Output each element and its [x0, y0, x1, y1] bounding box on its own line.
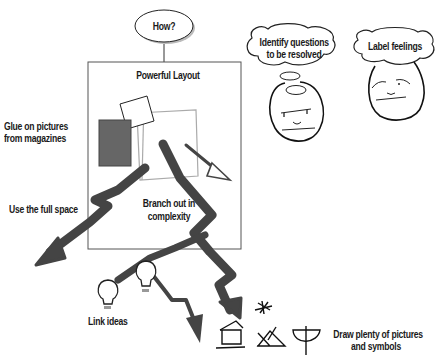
mountain-symbol	[257, 327, 285, 346]
magazine-picture	[99, 120, 131, 166]
content-face	[369, 62, 424, 120]
layout-caption-line-2: complexity	[136, 210, 202, 222]
thought-dot	[286, 86, 306, 95]
bowl-symbol	[293, 326, 320, 355]
link-branch	[118, 235, 205, 280]
question-bubble-text: How?	[144, 20, 183, 32]
link-sub-branch-head	[186, 314, 203, 343]
draw-pictures-label-line-2: and symbols	[333, 340, 418, 352]
link-ideas-label: Link ideas	[88, 315, 128, 327]
branch-arrow-left-head	[36, 238, 65, 265]
draw-pictures-label-line-1: Draw plenty of pictures	[333, 328, 418, 340]
asterisk-symbol	[255, 301, 272, 314]
link-sub-branch	[152, 274, 194, 320]
lightbulb-icon	[136, 261, 155, 292]
house-symbol	[216, 321, 245, 348]
layout-caption-line-1: Branch out in	[136, 197, 202, 209]
mind-map-diagram	[0, 0, 439, 360]
questions-bubble-text-line-2: to be resolved	[260, 48, 329, 60]
questions-bubble-text-line-1: Identify questions	[260, 36, 329, 48]
layout-box-title: Powerful Layout	[127, 69, 209, 81]
lightbulb-icon	[98, 280, 117, 309]
use-full-space-label: Use the full space	[9, 203, 78, 215]
small-arrow-head	[207, 163, 230, 180]
glue-pictures-label-line-2: from magazines	[4, 132, 66, 144]
thought-dot	[280, 72, 300, 80]
branch-arrow-right-head	[220, 298, 241, 318]
feelings-bubble-text: Label feelings	[368, 40, 422, 52]
glue-pictures-label-line-1: Glue on pictures	[4, 120, 68, 132]
